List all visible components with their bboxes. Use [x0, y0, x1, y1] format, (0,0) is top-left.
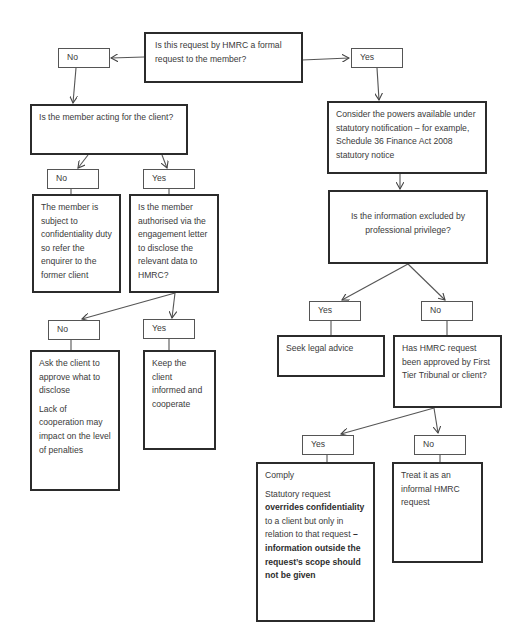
answer-ask-client-approve-p1: Ask the client to approve what to disclo… [39, 357, 111, 398]
answer-comply: Comply Statutory request overrides confi… [256, 462, 375, 622]
answer-seek-legal-advice: Seek legal advice [277, 335, 385, 377]
label-privilege-no: No [421, 301, 473, 321]
answer-confidentiality-duty: The member is subject to confidentiality… [32, 194, 121, 293]
label-acting-no: No [47, 169, 99, 189]
answer-seek-legal-advice-text: Seek legal advice [286, 343, 353, 353]
question-authorised-engagement-letter: Is the member authorised via the engagem… [129, 194, 219, 293]
answer-consider-statutory-powers-text: Consider the powers available under stat… [336, 109, 476, 160]
answer-confidentiality-duty-text: The member is subject to confidentiality… [41, 202, 112, 280]
answer-consider-statutory-powers: Consider the powers available under stat… [327, 101, 487, 174]
label-approved-yes: Yes [302, 435, 354, 455]
label-formal-yes: Yes [351, 48, 403, 68]
question-professional-privilege-text: Is the information excluded by professio… [351, 211, 465, 235]
question-acting-for-client: Is the member acting for the client? [30, 104, 188, 155]
label-formal-no: No [58, 48, 110, 68]
answer-ask-client-approve: Ask the client to approve what to disclo… [30, 350, 120, 491]
question-formal-request-text: Is this request by HMRC a formal request… [155, 40, 282, 64]
comply-text-2: to a client but only in relation to that… [265, 516, 353, 540]
answer-treat-informal: Treat it as an informal HMRC request [392, 462, 483, 563]
label-authorised-no: No [48, 320, 100, 340]
comply-text-1: Statutory request [265, 489, 330, 499]
label-approved-no: No [414, 435, 466, 455]
label-acting-yes: Yes [143, 169, 195, 189]
question-acting-for-client-text: Is the member acting for the client? [39, 112, 173, 122]
answer-comply-body: Statutory request overrides confidential… [265, 488, 366, 583]
question-approved-by-tribunal-text: Has HMRC request been approved by First … [402, 343, 490, 380]
label-authorised-yes: Yes [143, 319, 195, 339]
question-formal-request: Is this request by HMRC a formal request… [144, 32, 303, 83]
answer-treat-informal-text: Treat it as an informal HMRC request [401, 470, 460, 507]
question-professional-privilege: Is the information excluded by professio… [328, 190, 488, 264]
comply-bold-1: overrides confidentiality [265, 502, 364, 512]
answer-comply-title: Comply [265, 469, 366, 483]
answer-ask-client-approve-p2: Lack of cooperation may impact on the le… [39, 403, 111, 457]
label-privilege-yes: Yes [309, 301, 361, 321]
answer-keep-client-informed: Keep the client informed and cooperate [143, 350, 216, 450]
question-approved-by-tribunal: Has HMRC request been approved by First … [393, 335, 502, 408]
question-authorised-engagement-letter-text: Is the member authorised via the engagem… [138, 202, 207, 280]
answer-keep-client-informed-text: Keep the client informed and cooperate [152, 358, 202, 409]
